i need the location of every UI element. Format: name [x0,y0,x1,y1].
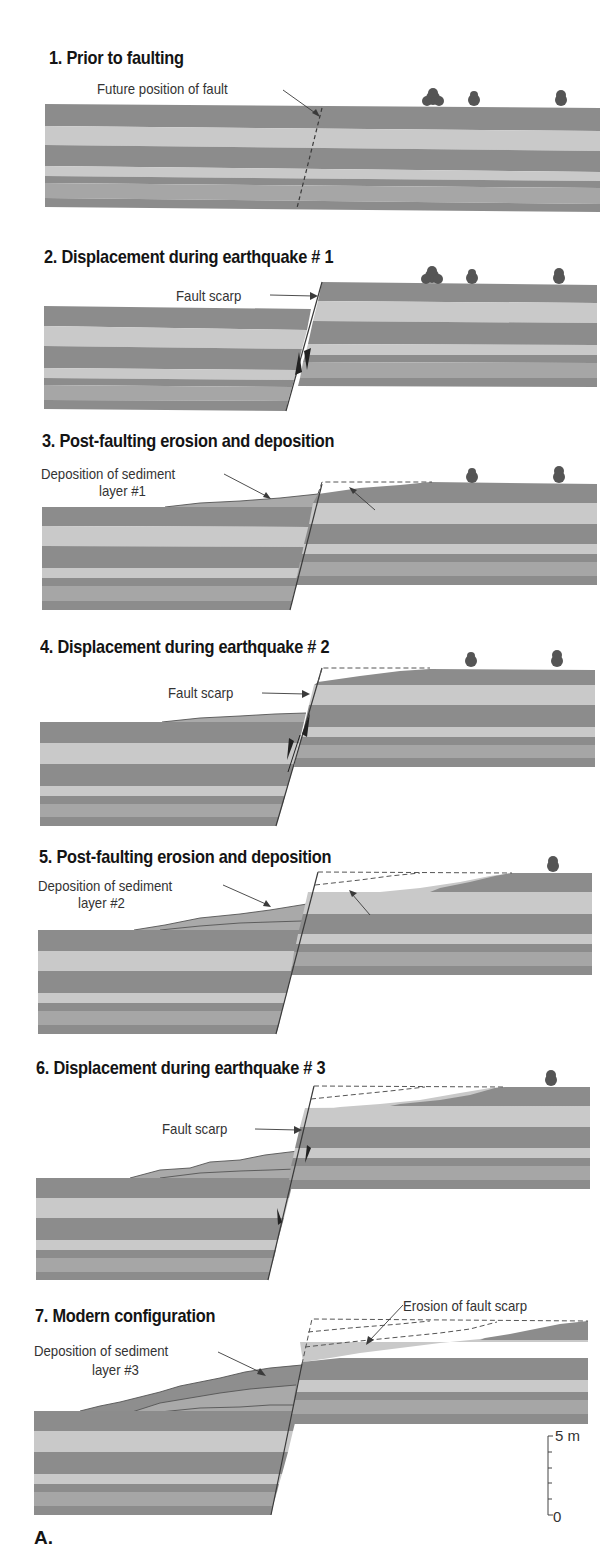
figure-letter: A. [34,1527,53,1549]
scale-bottom-label: 0 [553,1508,561,1525]
scale-bar [548,1436,553,1515]
scale-top-label: 5 m [555,1427,580,1444]
hangingwall-block [290,1321,588,1424]
sediment-layers-1-3 [80,1365,302,1412]
footwall-block [34,1411,298,1515]
panel-7-cross-section [0,0,610,1562]
fault-evolution-diagram: 1. Prior to faulting Future position of … [0,0,610,1562]
